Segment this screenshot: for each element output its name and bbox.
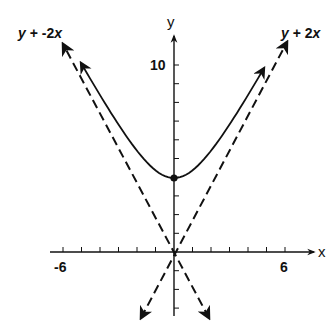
hyperbola-curve [81, 63, 264, 178]
asymptote-y-pos-2x [141, 42, 287, 318]
x-tick-label-6: 6 [280, 259, 288, 275]
plot-area: x y -6 6 10 y + -2x y + 2x [0, 0, 336, 333]
y-axis-label: y [167, 13, 175, 30]
graph-figure: x y -6 6 10 y + -2x y + 2x [0, 0, 336, 333]
asymptote-right-x: x [312, 25, 322, 41]
asymptote-label-right: y + 2x [280, 25, 322, 41]
asymptote-label-left: y + -2x [17, 25, 63, 41]
asymptote-left-coef: + -2 [26, 25, 55, 41]
asymptote-left-x: x [53, 25, 63, 41]
asymptote-y-neg-2x [63, 44, 209, 318]
asymptote-right-coef: + 2 [289, 25, 313, 41]
x-axis-label: x [318, 243, 326, 260]
vertex-point [170, 174, 177, 181]
x-tick-label-neg6: -6 [54, 259, 67, 275]
y-tick-label-10: 10 [150, 57, 166, 73]
